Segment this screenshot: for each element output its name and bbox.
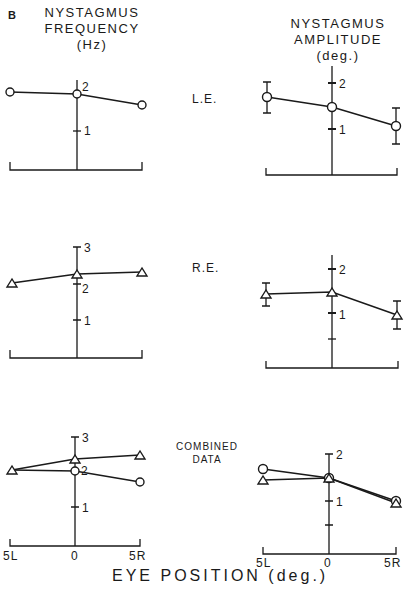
circle-marker: [259, 465, 268, 474]
y-tick-label: 1: [82, 501, 89, 515]
y-tick-label: 2: [82, 282, 89, 296]
y-tick-label: 2: [81, 464, 88, 478]
y-tick-label: 1: [84, 124, 91, 138]
circle-marker: [136, 478, 144, 486]
circle-marker: [6, 88, 14, 96]
axes: [10, 437, 140, 546]
axes: [263, 454, 396, 554]
circle-marker: [263, 93, 272, 102]
circle-marker: [71, 467, 79, 475]
panel-le-frequency: 1 2: [6, 80, 146, 170]
y-tick-label: 2: [336, 448, 343, 462]
axes: [266, 255, 398, 368]
y-tick-label: 1: [84, 314, 91, 328]
y-tick-label: 3: [82, 431, 89, 445]
panel-re-frequency: 3 2 1: [7, 241, 147, 358]
circle-marker: [138, 101, 146, 109]
y-tick-label: 2: [82, 80, 89, 94]
triangle-marker: [392, 311, 402, 319]
panel-combined-frequency: 3 2 1: [7, 431, 145, 546]
y-tick-label: 2: [339, 263, 346, 277]
panel-combined-amplitude: 2 1: [258, 448, 401, 554]
figure-canvas: 1 2 2 1 3 2 1 2 1: [0, 0, 414, 590]
y-tick-label: 1: [336, 495, 343, 509]
y-tick-label: 1: [339, 308, 346, 322]
circle-marker: [328, 103, 337, 112]
panel-re-amplitude: 2 1: [261, 255, 402, 368]
y-tick-label: 2: [339, 77, 346, 91]
y-tick-label: 1: [339, 123, 346, 137]
y-tick-label: 3: [84, 241, 91, 255]
circle-marker: [392, 122, 401, 131]
panel-le-amplitude: 2 1: [263, 66, 401, 175]
circle-marker: [73, 90, 81, 98]
axes: [10, 247, 142, 358]
